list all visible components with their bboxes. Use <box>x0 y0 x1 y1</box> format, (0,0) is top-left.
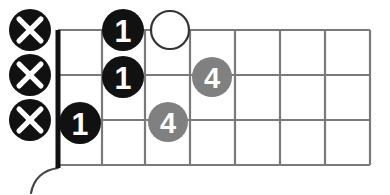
open-marker-fret3-string1 <box>151 11 189 49</box>
fret-lines-group <box>102 30 370 165</box>
marker-circle-icon <box>102 56 144 98</box>
finger-marker-1-fret1-string3: 1 <box>59 102 101 144</box>
finger-marker-1-fret2-string2: 1 <box>102 56 144 98</box>
muted-string-markers-group <box>9 9 51 141</box>
string-lines-group <box>58 30 370 165</box>
marker-circle-icon <box>59 102 101 144</box>
marker-circle-icon <box>192 57 232 97</box>
marker-circle-icon <box>148 102 188 142</box>
finger-marker-1-fret2-string1: 1 <box>102 9 144 51</box>
open-string-circle-icon <box>151 11 189 49</box>
muted-string-1 <box>9 9 51 51</box>
chord-diagram-canvas: 11414 <box>0 0 390 195</box>
guitar-body-curve-icon <box>31 168 58 193</box>
finger-marker-4-fret3-string3: 4 <box>148 102 188 142</box>
marker-circle-icon <box>102 9 144 51</box>
finger-marker-4-fret4-string2: 4 <box>192 57 232 97</box>
muted-string-2 <box>9 54 51 96</box>
guitar-chord-diagram: 11414 <box>0 0 390 195</box>
muted-string-3 <box>9 99 51 141</box>
